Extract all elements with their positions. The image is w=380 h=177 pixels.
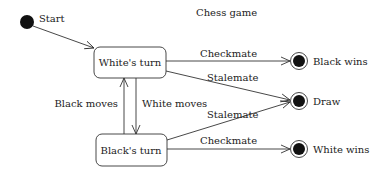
start-transition bbox=[33, 26, 94, 48]
state-diagram: Chess game Start White's turn Black's tu… bbox=[0, 0, 380, 177]
final-state-draw: Draw bbox=[291, 93, 341, 110]
state-black-turn: Black's turn bbox=[96, 134, 167, 166]
white-stalemate-label: Stalemate bbox=[207, 72, 258, 83]
white-wins-label: White wins bbox=[313, 144, 369, 155]
black-moves-label: Black moves bbox=[54, 98, 118, 109]
white-checkmate-label: Checkmate bbox=[200, 48, 257, 59]
draw-label: Draw bbox=[313, 96, 341, 107]
black-stalemate-label: Stalemate bbox=[207, 109, 258, 120]
final-state-black-wins: Black wins bbox=[291, 53, 368, 70]
initial-state: Start bbox=[20, 13, 65, 29]
state-white-turn-label: White's turn bbox=[99, 57, 162, 68]
start-label: Start bbox=[39, 13, 65, 24]
black-checkmate-label: Checkmate bbox=[200, 135, 257, 146]
final-state-white-wins: White wins bbox=[291, 141, 370, 158]
white-moves-label: White moves bbox=[142, 98, 207, 109]
state-black-turn-label: Black's turn bbox=[101, 145, 162, 156]
diagram-title: Chess game bbox=[196, 7, 257, 18]
black-wins-label: Black wins bbox=[313, 56, 368, 67]
state-white-turn: White's turn bbox=[94, 47, 166, 78]
